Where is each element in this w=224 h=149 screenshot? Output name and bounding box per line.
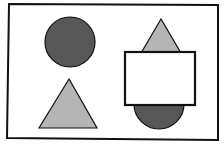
white-rectangle: [125, 52, 195, 105]
light-triangle-bottom-left: [39, 79, 97, 128]
shapes-diagram: [0, 0, 224, 149]
diagram-svg: [0, 0, 224, 149]
dark-circle: [45, 17, 95, 67]
